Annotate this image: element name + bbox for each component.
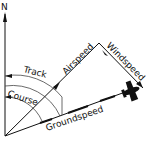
north-label: N xyxy=(1,2,8,12)
track-arrowhead-icon xyxy=(5,74,12,78)
north-arrow-icon xyxy=(3,12,7,22)
windspeed-label: Windspeed xyxy=(105,40,147,82)
track-label: Track xyxy=(22,64,49,80)
groundspeed-thick-3 xyxy=(100,96,115,101)
course-label: Course xyxy=(6,88,39,107)
wind-triangle-diagram: N Track Course Airspeed Windspeed Ground… xyxy=(0,0,149,141)
airspeed-label: Airspeed xyxy=(60,41,95,76)
